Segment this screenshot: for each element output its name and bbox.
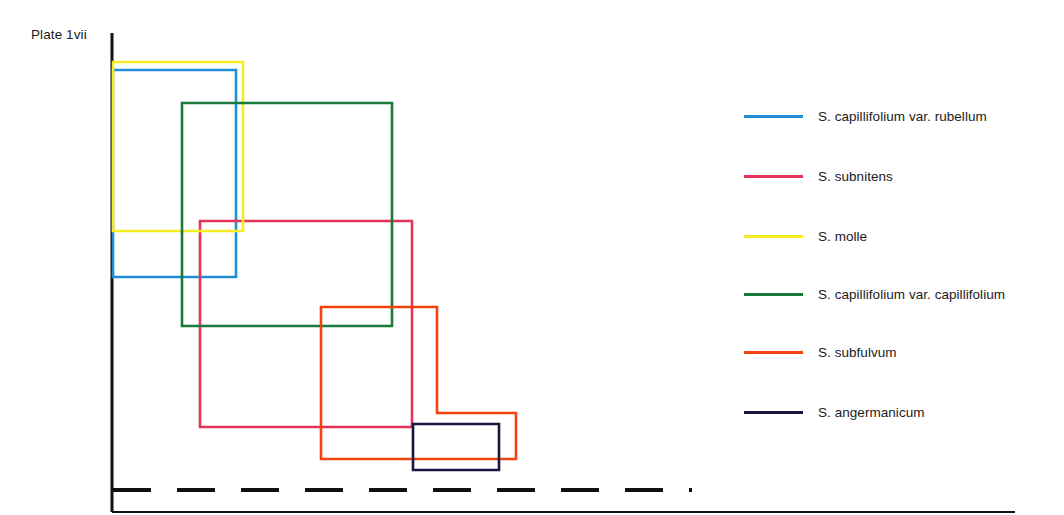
series-outline-1: [200, 221, 412, 427]
series-outline-2: [113, 62, 243, 231]
legend-swatch-icon: [744, 175, 803, 178]
legend-item-1[interactable]: S. subnitens: [744, 165, 893, 187]
page-title: Plate 1vii: [31, 27, 87, 42]
legend-item-label: S. subfulvum: [818, 345, 897, 360]
legend-item-4[interactable]: S. subfulvum: [744, 341, 897, 363]
legend-swatch-icon: [744, 115, 803, 118]
series-group: [113, 62, 516, 470]
figure-canvas: Plate 1vii S. capillifolium var. rubellu…: [0, 0, 1064, 515]
legend-item-0[interactable]: S. capillifolium var. rubellum: [744, 105, 987, 127]
legend-item-label: S. angermanicum: [818, 405, 925, 420]
series-outline-4: [321, 307, 516, 459]
legend-swatch-icon: [744, 235, 803, 238]
legend-swatch-icon: [744, 351, 803, 354]
legend-item-label: S. molle: [818, 229, 867, 244]
legend-item-label: S. capillifolium var. rubellum: [818, 109, 987, 124]
legend-swatch-icon: [744, 293, 803, 296]
legend-swatch-icon: [744, 411, 803, 414]
series-outline-3: [182, 103, 392, 326]
legend-item-label: S. subnitens: [818, 169, 893, 184]
series-outline-5: [413, 424, 499, 470]
legend-item-label: S. capillifolium var. capillifolium: [818, 287, 1005, 302]
legend: S. capillifolium var. rubellumS. subnite…: [744, 96, 1064, 426]
legend-item-5[interactable]: S. angermanicum: [744, 401, 925, 423]
legend-item-3[interactable]: S. capillifolium var. capillifolium: [744, 283, 1005, 305]
series-outline-0: [113, 70, 236, 277]
legend-item-2[interactable]: S. molle: [744, 225, 867, 247]
